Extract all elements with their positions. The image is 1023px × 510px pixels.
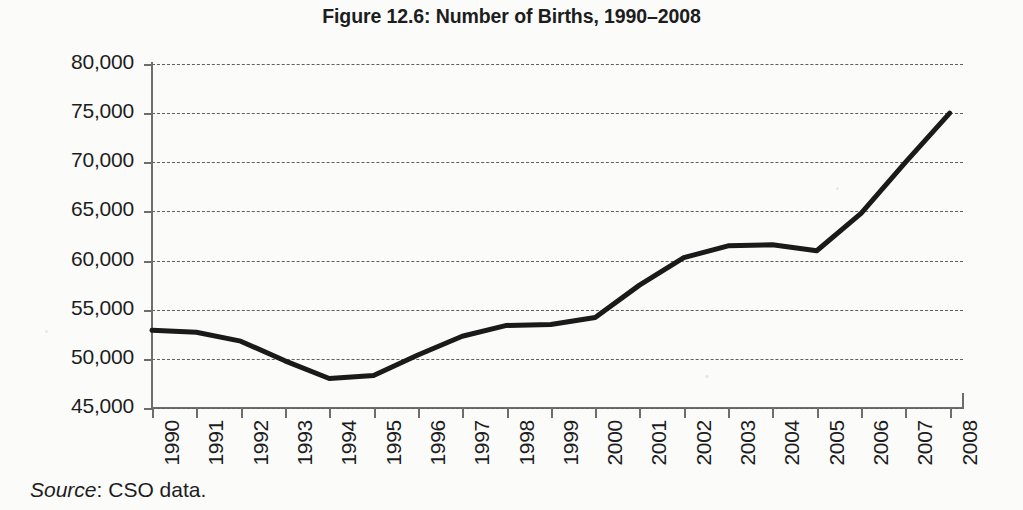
x-tick-mark [772, 408, 774, 418]
x-tick-label-2008: 2008 [958, 420, 982, 466]
x-tick-mark [152, 408, 154, 418]
x-tick-label-2006: 2006 [869, 420, 893, 466]
x-tick-label-1990: 1990 [160, 420, 184, 466]
x-tick-mark [639, 408, 641, 418]
scan-speckle [705, 375, 709, 378]
x-tick-label-1997: 1997 [470, 420, 494, 466]
x-tick-label-2005: 2005 [825, 420, 849, 466]
plot-area: 1990199119921993199419951996199719981999… [152, 64, 963, 408]
source-label: Source [30, 478, 97, 501]
x-tick-mark [241, 408, 243, 418]
x-tick-mark [285, 408, 287, 418]
x-tick-mark [374, 408, 376, 418]
x-tick-label-1993: 1993 [293, 420, 317, 466]
gridline-45000 [152, 408, 963, 409]
scan-speckle [836, 187, 839, 190]
x-tick-label-2004: 2004 [780, 420, 804, 466]
x-tick-mark [595, 408, 597, 418]
x-tick-label-1991: 1991 [204, 420, 228, 466]
x-tick-mark [551, 408, 553, 418]
x-tick-mark [728, 408, 730, 418]
y-tick-label: 65,000 [0, 197, 134, 221]
x-tick-label-1996: 1996 [426, 420, 450, 466]
figure-container: Figure 12.6: Number of Births, 1990–2008… [0, 0, 1023, 510]
chart-title: Figure 12.6: Number of Births, 1990–2008 [0, 5, 1023, 28]
x-tick-mark [462, 408, 464, 418]
x-tick-label-2003: 2003 [736, 420, 760, 466]
x-tick-label-2002: 2002 [692, 420, 716, 466]
y-tick-label: 60,000 [0, 247, 134, 271]
x-tick-mark [684, 408, 686, 418]
x-tick-label-1992: 1992 [249, 420, 273, 466]
x-tick-label-1994: 1994 [337, 420, 361, 466]
y-tick-label: 75,000 [0, 99, 134, 123]
x-tick-mark [329, 408, 331, 418]
y-tick-label: 55,000 [0, 296, 134, 320]
x-tick-label-1995: 1995 [382, 420, 406, 466]
source-separator: : [97, 478, 109, 501]
x-tick-label-1998: 1998 [515, 420, 539, 466]
scan-speckle [45, 330, 48, 333]
births-series-line [152, 64, 963, 408]
x-tick-label-2001: 2001 [647, 420, 671, 466]
x-tick-mark [905, 408, 907, 418]
y-tick-label: 50,000 [0, 345, 134, 369]
x-tick-mark [950, 408, 952, 418]
x-tick-mark [861, 408, 863, 418]
y-tick-label: 70,000 [0, 148, 134, 172]
x-tick-mark [418, 408, 420, 418]
x-tick-label-2007: 2007 [913, 420, 937, 466]
source-value: CSO data. [108, 478, 206, 501]
y-tick-label: 80,000 [0, 50, 134, 74]
x-tick-label-1999: 1999 [559, 420, 583, 466]
x-tick-mark [507, 408, 509, 418]
x-tick-mark [817, 408, 819, 418]
y-tick-label: 45,000 [0, 394, 134, 418]
x-tick-label-2000: 2000 [603, 420, 627, 466]
x-tick-mark [196, 408, 198, 418]
source-note: Source: CSO data. [30, 478, 206, 502]
series-polyline [152, 113, 950, 378]
